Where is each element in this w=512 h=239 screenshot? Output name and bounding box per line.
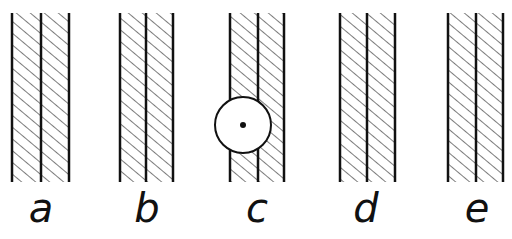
center-dot-icon bbox=[240, 122, 246, 128]
strip-a bbox=[12, 13, 69, 182]
label-e: e bbox=[465, 188, 490, 228]
label-b: b bbox=[134, 188, 159, 228]
strip-d bbox=[340, 13, 395, 182]
label-c: c bbox=[246, 188, 268, 228]
label-d: d bbox=[353, 188, 378, 228]
strip-c bbox=[215, 13, 284, 182]
strip-b bbox=[120, 13, 173, 182]
label-a: a bbox=[29, 188, 54, 228]
strip-e bbox=[448, 13, 503, 182]
